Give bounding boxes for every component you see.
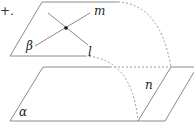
label-l: l — [88, 45, 92, 59]
label-beta: β — [25, 39, 33, 53]
line-n — [138, 67, 171, 121]
label-m: m — [94, 4, 105, 18]
dashed-arc-upper — [118, 2, 171, 67]
line-m — [35, 13, 90, 46]
label-alpha: α — [19, 105, 27, 119]
partial-caption-text: +. — [0, 4, 14, 18]
geometry-figure: +. m l β n α — [0, 0, 194, 126]
intersection-point — [64, 26, 68, 30]
dashed-arc-lower — [85, 56, 138, 121]
label-n: n — [145, 78, 153, 92]
